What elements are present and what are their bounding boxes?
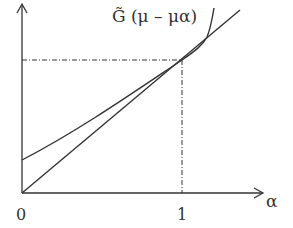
tick-label-one: 1 (177, 205, 187, 224)
g-tilde-curve (22, 8, 214, 160)
tick-label-origin: 0 (16, 205, 26, 224)
x-axis-label: α (266, 191, 278, 211)
diagram-canvas: G̃ (μ – μα) α 0 1 (0, 0, 293, 228)
curve-label: G̃ (μ – μα) (112, 6, 197, 26)
axes (17, 4, 263, 198)
